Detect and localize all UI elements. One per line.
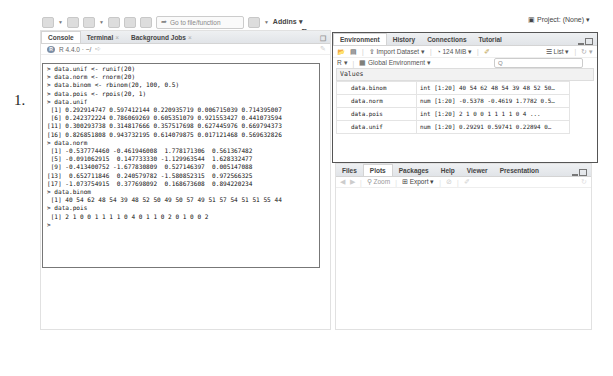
back-arrow-icon[interactable]: ◀	[340, 178, 345, 186]
tab-console[interactable]: Console	[41, 31, 81, 43]
import-dataset-button[interactable]: ⇪ Import Dataset ▾	[369, 48, 425, 56]
tab-presentation[interactable]: Presentation	[494, 165, 545, 176]
console-line: [1] 0.292914747 0.597412144 0.220935719 …	[47, 106, 315, 114]
window-controls	[572, 169, 587, 176]
chevron-down-icon[interactable]: ▼	[264, 19, 269, 25]
minimize-icon[interactable]	[578, 43, 584, 45]
console-line: > data.norm <- rnorm(20)	[47, 73, 315, 81]
remove-plot-icon[interactable]: ⊘	[446, 178, 452, 186]
broom-icon[interactable]: ✐	[464, 178, 470, 186]
chevron-down-icon[interactable]: ▼	[58, 19, 63, 25]
zoom-button[interactable]: ⚲ Zoom	[367, 178, 390, 186]
tab-files[interactable]: Files	[336, 165, 363, 176]
tab-environment[interactable]: Environment	[333, 33, 387, 45]
tab-viewer[interactable]: Viewer	[461, 165, 494, 176]
refresh-icon[interactable]: ↻	[581, 178, 587, 186]
r-version: R 4.4.0 · ~/	[59, 46, 91, 53]
memory-usage-button[interactable]: ◔ 124 MiB ▾	[437, 48, 472, 56]
minimize-icon[interactable]	[572, 174, 578, 176]
console-line: [13] 0.652711846 0.240579782 -1.58085231…	[47, 172, 315, 180]
arrow-icon: ➦	[161, 18, 167, 26]
console-subbar: R R 4.4.0 · ~/ ➪ ✎	[41, 44, 330, 55]
tab-packages[interactable]: Packages	[393, 165, 435, 176]
console-line: [17] -1.073754915 0.377698092 0.16867360…	[47, 180, 315, 188]
table-row[interactable]: data.poisint [1:20] 2 1 0 0 1 1 1 1 0 4 …	[337, 108, 570, 121]
console-line: [16] 0.826851808 0.943732195 0.614079875…	[47, 131, 315, 139]
save-workspace-icon[interactable]: ▤	[350, 48, 357, 56]
save-icon[interactable]	[108, 17, 120, 28]
forward-arrow-icon[interactable]: ▶	[350, 178, 355, 186]
values-section-header: Values	[336, 68, 594, 81]
console-line: [1] 2 1 0 0 1 1 1 1 0 4 0 1 1 0 2 0 1 0 …	[47, 213, 315, 221]
console-line: > data.pois	[47, 204, 315, 212]
plots-tabbar: Files Plots Packages Help Viewer Present…	[336, 164, 591, 177]
goto-file-input[interactable]: ➦Go to file/function	[156, 16, 244, 29]
addins-menu[interactable]: Addins ▾	[273, 18, 303, 26]
goto-dir-icon[interactable]: ➪	[95, 45, 101, 53]
console-line: [6] 0.242372224 0.786069269 0.605351079 …	[47, 114, 315, 122]
env-values-table: data.binomint [1:20] 40 54 62 48 54 39 4…	[336, 81, 570, 134]
close-icon[interactable]: ×	[188, 34, 192, 41]
env-subbar: R ▾ | ▦ Global Environment ▾ Q	[333, 58, 597, 68]
tab-terminal[interactable]: Terminal×	[81, 32, 125, 43]
env-toolbar: 📂 ▤ | ⇪ Import Dataset ▾ | ◔ 124 MiB ▾ |…	[333, 46, 597, 58]
plots-pane: Files Plots Packages Help Viewer Present…	[335, 163, 592, 330]
grid-layout-icon[interactable]	[248, 17, 260, 28]
clear-console-icon[interactable]: ✎	[320, 45, 326, 53]
broom-icon[interactable]: ✐	[484, 48, 490, 56]
load-workspace-icon[interactable]: 📂	[337, 48, 345, 56]
env-search-input[interactable]: Q	[494, 58, 583, 68]
console-line: > data.binom <- rbinom(20, 100, 0.5)	[47, 81, 315, 89]
r-logo-icon: R	[47, 46, 55, 53]
console-line: [5] -0.091062915 0.147733330 -1.12996354…	[47, 155, 315, 163]
annotation-label-1: 1.	[14, 92, 25, 109]
tab-connections[interactable]: Connections	[421, 34, 472, 45]
console-tabbar: Console Terminal× Background Jobs× ❐	[41, 31, 330, 44]
chevron-down-icon[interactable]: ▼	[99, 19, 104, 25]
table-row[interactable]: data.normnum [1:20] -0.5378 -0.4619 1.77…	[337, 95, 570, 108]
console-line: [1] -0.537774460 -0.461946008 1.77817130…	[47, 147, 315, 155]
project-menu[interactable]: ▣ Project: (None) ▾	[528, 16, 590, 24]
tab-plots[interactable]: Plots	[363, 164, 393, 176]
table-row[interactable]: data.unifnum [1:20] 0.29291 0.59741 0.22…	[337, 121, 570, 134]
console-line: [11] 0.300293738 0.314817666 0.357517698…	[47, 122, 315, 130]
language-select[interactable]: R ▾	[337, 59, 348, 67]
open-file-icon[interactable]	[83, 17, 95, 28]
console-line: > data.unif <- runif(20)	[47, 65, 315, 73]
window-controls	[578, 38, 593, 45]
console-line: > data.binom	[47, 188, 315, 196]
maximize-icon[interactable]: ❐	[320, 35, 326, 43]
console-line: > data.unif	[47, 98, 315, 106]
environment-pane: Environment History Connections Tutorial…	[332, 32, 598, 163]
console-line: > data.norm	[47, 139, 315, 147]
new-file-icon[interactable]	[42, 17, 54, 28]
export-button[interactable]: ⊞ Export ▾	[402, 178, 434, 186]
print-icon[interactable]	[140, 17, 152, 28]
tab-background-jobs[interactable]: Background Jobs×	[125, 32, 198, 43]
new-project-icon[interactable]	[67, 17, 79, 28]
plots-toolbar: ◀ ▶ | ⚲ Zoom | ⊞ Export ▾ | ⊘ | ✐ ↻	[336, 177, 591, 188]
console-line: > data.pois <- rpois(20, 1)	[47, 90, 315, 98]
refresh-icon[interactable]: ↻ ▾	[581, 48, 593, 56]
console-text: > data.unif <- runif(20)> data.norm <- r…	[43, 64, 319, 230]
console-line: [1] 40 54 62 48 54 39 48 52 50 49 50 57 …	[47, 196, 315, 204]
tab-history[interactable]: History	[387, 34, 421, 45]
tab-tutorial[interactable]: Tutorial	[473, 34, 508, 45]
main-toolbar: ▼ ▼ ➦Go to file/function ▼ Addins ▾ ▣ Pr…	[42, 14, 590, 30]
close-icon[interactable]: ×	[115, 34, 119, 41]
maximize-icon[interactable]	[579, 169, 587, 176]
env-tabbar: Environment History Connections Tutorial	[333, 33, 597, 46]
console-line: >	[47, 221, 315, 229]
console-output[interactable]: > data.unif <- runif(20)> data.norm <- r…	[42, 63, 320, 268]
environment-select[interactable]: ▦ Global Environment ▾	[359, 59, 431, 67]
view-mode-button[interactable]: ☰ List ▾	[546, 48, 570, 56]
maximize-icon[interactable]	[585, 38, 593, 45]
tab-help[interactable]: Help	[435, 165, 461, 176]
save-all-icon[interactable]	[124, 17, 136, 28]
console-line: [9] -0.413400752 -1.677830809 0.52714639…	[47, 163, 315, 171]
table-row[interactable]: data.binomint [1:20] 40 54 62 48 54 39 4…	[337, 82, 570, 95]
